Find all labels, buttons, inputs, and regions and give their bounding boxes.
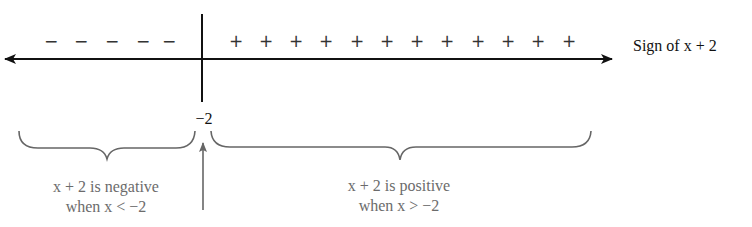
- svg-text:+: +: [440, 31, 454, 51]
- svg-text:−: −: [105, 31, 119, 51]
- positive-signs: + + + + + + + + + + + +: [229, 31, 576, 51]
- svg-text:−: −: [44, 31, 58, 51]
- svg-text:−: −: [162, 31, 176, 51]
- left-region-annotation: x + 2 is negative when x < −2: [53, 178, 159, 215]
- right-brace: [211, 131, 591, 160]
- svg-text:when x < −2: when x < −2: [66, 198, 147, 215]
- svg-text:+: +: [229, 31, 243, 51]
- svg-text:+: +: [319, 31, 333, 51]
- svg-text:when x > −2: when x > −2: [359, 197, 440, 214]
- sign-chart: − − − − − + + + + + + + + + + + + Sign o…: [0, 0, 752, 227]
- svg-text:+: +: [501, 31, 515, 51]
- svg-text:x + 2 is negative: x + 2 is negative: [53, 178, 159, 196]
- svg-text:+: +: [531, 31, 545, 51]
- svg-text:+: +: [410, 31, 424, 51]
- axis-label: Sign of x + 2: [633, 37, 717, 55]
- svg-text:−: −: [136, 31, 150, 51]
- svg-text:+: +: [471, 31, 485, 51]
- svg-text:x + 2 is positive: x + 2 is positive: [348, 177, 450, 195]
- negative-signs: − − − − −: [44, 31, 176, 51]
- svg-text:−: −: [74, 31, 88, 51]
- svg-text:+: +: [289, 31, 303, 51]
- svg-text:+: +: [259, 31, 273, 51]
- right-region-annotation: x + 2 is positive when x > −2: [348, 177, 450, 214]
- left-brace: [19, 131, 195, 159]
- svg-text:+: +: [562, 31, 576, 51]
- critical-point-label: −2: [195, 110, 212, 127]
- svg-text:+: +: [350, 31, 364, 51]
- svg-text:+: +: [380, 31, 394, 51]
